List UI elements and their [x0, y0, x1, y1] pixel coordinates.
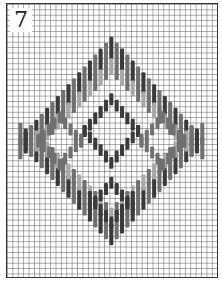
- figure-number-label: 7: [10, 8, 32, 32]
- bargello-diamond-pattern: [7, 4, 217, 277]
- graph-grid-frame: 7: [6, 3, 218, 278]
